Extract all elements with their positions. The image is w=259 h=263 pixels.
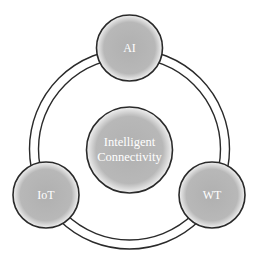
node-iot-label: IoT xyxy=(37,188,55,202)
node-ai-label: AI xyxy=(123,41,136,55)
node-iot: IoT xyxy=(13,162,79,228)
center-label-line1: Intelligent xyxy=(104,135,156,149)
center-label-line2: Connectivity xyxy=(97,150,162,164)
intelligent-connectivity-diagram: Intelligent Connectivity AI IoT WT xyxy=(0,0,259,263)
node-wt: WT xyxy=(179,162,245,228)
center-node-intelligent-connectivity: Intelligent Connectivity xyxy=(87,107,173,193)
node-wt-label: WT xyxy=(203,188,222,202)
node-ai: AI xyxy=(97,15,163,81)
